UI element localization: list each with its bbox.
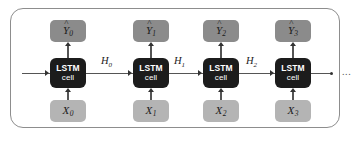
input-node-1: X1 xyxy=(133,100,169,122)
output-label-1: ^Y1 xyxy=(146,24,156,39)
input-label-2: X2 xyxy=(216,104,227,119)
diagram-canvas: ... ^Y0 LSTM cell X0 ^Y1 LSTM cell X1 xyxy=(0,0,357,144)
recurrent-arrow-into-cell-2 xyxy=(198,70,202,76)
lstm-cell-0: LSTM cell xyxy=(50,58,86,88)
output-hat-icon-3: ^ xyxy=(288,19,295,28)
input-link-0 xyxy=(67,92,68,100)
input-base-0: X xyxy=(63,104,70,116)
hidden-state-label-1: H1 xyxy=(174,55,185,69)
hidden-state-base-0: H xyxy=(101,55,109,66)
lstm-cell-label-3-line2: cell xyxy=(287,74,299,82)
input-sub-2: 2 xyxy=(223,109,227,118)
output-hat-icon-1: ^ xyxy=(146,19,153,28)
hidden-state-sub-1: 1 xyxy=(182,61,186,69)
input-arrow-0 xyxy=(65,88,71,92)
input-sub-0: 0 xyxy=(70,109,74,118)
input-base-1: X xyxy=(146,104,153,116)
hidden-state-base-1: H xyxy=(174,55,182,66)
recurrent-arrow-into-cell-3 xyxy=(270,70,274,76)
continuation-ellipsis: ... xyxy=(342,66,351,77)
input-base-2: X xyxy=(216,104,223,116)
input-sub-3: 3 xyxy=(295,109,299,118)
input-label-0: X0 xyxy=(63,104,74,119)
lstm-cell-label-2-line2: cell xyxy=(215,74,227,82)
input-arrow-3 xyxy=(290,88,296,92)
lstm-cell-label-0-line2: cell xyxy=(62,74,74,82)
output-label-0: ^Y0 xyxy=(63,24,73,39)
lstm-cell-label-0-line1: LSTM xyxy=(56,64,80,73)
output-link-1 xyxy=(150,46,151,58)
input-sub-1: 1 xyxy=(153,109,157,118)
output-node-2: ^Y2 xyxy=(203,20,239,42)
output-sub-0: 0 xyxy=(69,29,73,38)
output-arrow-2 xyxy=(218,42,224,46)
input-node-2: X2 xyxy=(203,100,239,122)
output-node-0: ^Y0 xyxy=(50,20,86,42)
output-link-3 xyxy=(292,46,293,58)
input-arrow-2 xyxy=(218,88,224,92)
output-sub-3: 3 xyxy=(294,29,298,38)
lstm-cell-label-3-line1: LSTM xyxy=(281,64,305,73)
input-arrow-1 xyxy=(148,88,154,92)
hidden-state-sub-2: 2 xyxy=(254,61,258,69)
hidden-state-sub-0: 0 xyxy=(109,61,113,69)
output-node-3: ^Y3 xyxy=(275,20,311,42)
output-hat-icon-0: ^ xyxy=(63,19,70,28)
input-link-1 xyxy=(150,92,151,100)
input-label-1: X1 xyxy=(146,104,157,119)
lstm-cell-label-1-line1: LSTM xyxy=(139,64,163,73)
input-base-3: X xyxy=(288,104,295,116)
hidden-state-base-2: H xyxy=(246,55,254,66)
recurrent-arrow-into-cell-1 xyxy=(128,70,132,76)
lstm-cell-3: LSTM cell xyxy=(275,58,311,88)
input-node-0: X0 xyxy=(50,100,86,122)
input-link-3 xyxy=(292,92,293,100)
output-sub-2: 2 xyxy=(222,29,226,38)
lstm-cell-1: LSTM cell xyxy=(133,58,169,88)
input-link-2 xyxy=(220,92,221,100)
output-hat-icon-2: ^ xyxy=(216,19,223,28)
recurrent-line-exit xyxy=(311,73,332,74)
recurrent-arrow-into-cell-0 xyxy=(45,70,49,76)
output-link-0 xyxy=(67,46,68,58)
lstm-cell-label-1-line2: cell xyxy=(145,74,157,82)
output-arrow-0 xyxy=(65,42,71,46)
lstm-cell-label-2-line1: LSTM xyxy=(209,64,233,73)
output-sub-1: 1 xyxy=(152,29,156,38)
output-label-2: ^Y2 xyxy=(216,24,226,39)
input-label-3: X3 xyxy=(288,104,299,119)
hidden-state-label-2: H2 xyxy=(246,55,257,69)
recurrent-line-h0 xyxy=(86,73,133,74)
hidden-state-label-0: H0 xyxy=(101,55,112,69)
output-arrow-3 xyxy=(290,42,296,46)
output-link-2 xyxy=(220,46,221,58)
output-node-1: ^Y1 xyxy=(133,20,169,42)
output-label-3: ^Y3 xyxy=(288,24,298,39)
output-arrow-1 xyxy=(148,42,154,46)
lstm-cell-2: LSTM cell xyxy=(203,58,239,88)
input-node-3: X3 xyxy=(275,100,311,122)
